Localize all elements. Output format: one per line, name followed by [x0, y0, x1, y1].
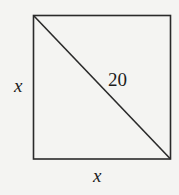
diagonal-line — [34, 16, 171, 160]
square-diagram: 20 x x — [0, 0, 179, 195]
bottom-side-label: x — [93, 166, 101, 185]
diagonal-length-label: 20 — [108, 70, 127, 89]
square-with-diagonal — [0, 0, 179, 195]
left-side-label: x — [14, 76, 22, 95]
